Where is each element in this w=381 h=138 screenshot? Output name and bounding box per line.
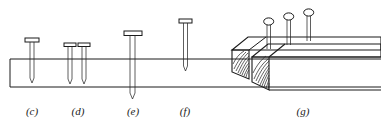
board-cross-section	[10, 59, 381, 87]
beam-assembly	[232, 9, 381, 90]
rear-beam	[232, 37, 381, 79]
beam-nail-2	[284, 13, 294, 45]
nail-d-left	[64, 43, 76, 84]
figure-linework: .ln { stroke: #1a1a1a; fill: none; strok…	[0, 0, 381, 138]
caption-e: (e)	[115, 106, 151, 117]
caption-d: (d)	[60, 106, 96, 117]
nail-e	[124, 31, 142, 99]
caption-f: (f)	[167, 106, 203, 117]
front-beam	[252, 44, 381, 90]
nail-d-right	[78, 43, 90, 84]
nail-penetration-figure: .ln { stroke: #1a1a1a; fill: none; strok…	[0, 0, 381, 138]
caption-c: (c)	[14, 106, 50, 117]
nail-c	[25, 38, 39, 83]
caption-g: (g)	[285, 106, 321, 117]
beam-nail-3	[304, 9, 314, 41]
nail-f	[179, 19, 192, 71]
